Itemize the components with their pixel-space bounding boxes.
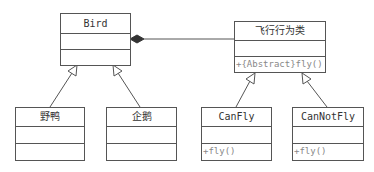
operation-fly: +fly() xyxy=(293,144,363,160)
generalization-line-cannotfly xyxy=(307,81,327,107)
inheritance-arrow-icon xyxy=(302,73,311,84)
class-name: 企鹅 xyxy=(107,108,176,127)
operations-compartment xyxy=(61,50,130,65)
generalization-line-canfly xyxy=(236,81,250,107)
class-name: CanFly xyxy=(202,108,271,127)
inheritance-arrow-icon xyxy=(113,65,122,76)
class-name: 野鸭 xyxy=(16,108,84,127)
class-canfly[interactable]: CanFly +fly() xyxy=(201,107,272,161)
attributes-compartment xyxy=(235,41,325,57)
attributes-compartment xyxy=(61,34,130,50)
class-fly-behavior[interactable]: 飞行行为类 +{Abstract}fly() xyxy=(234,21,326,73)
class-name: 飞行行为类 xyxy=(235,22,325,41)
inheritance-arrow-icon xyxy=(68,65,77,76)
class-name: CanNotFly xyxy=(293,108,363,127)
class-cannotfly[interactable]: CanNotFly +fly() xyxy=(292,107,364,161)
generalization-line-wildduck xyxy=(50,73,72,107)
attributes-compartment xyxy=(16,127,84,144)
operation-fly: +fly() xyxy=(202,144,271,160)
attributes-compartment xyxy=(107,127,176,144)
inheritance-arrow-icon xyxy=(246,73,255,84)
composition-diamond-icon xyxy=(130,35,144,43)
class-penguin[interactable]: 企鹅 xyxy=(106,107,177,161)
operations-compartment xyxy=(16,144,84,160)
class-wild-duck[interactable]: 野鸭 xyxy=(15,107,85,161)
class-name: Bird xyxy=(61,14,130,34)
attributes-compartment xyxy=(202,127,271,144)
generalization-line-penguin xyxy=(118,73,140,107)
operations-compartment xyxy=(107,144,176,160)
class-bird[interactable]: Bird xyxy=(60,13,131,66)
operation-fly: +{Abstract}fly() xyxy=(235,57,325,72)
attributes-compartment xyxy=(293,127,363,144)
